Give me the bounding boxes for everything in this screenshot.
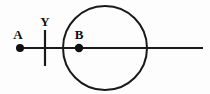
tick-y-label: Y: [40, 14, 50, 29]
diagram-canvas: A Y B: [0, 0, 210, 94]
point-a-dot: [16, 44, 24, 52]
diagram-svg: A Y B: [0, 0, 210, 94]
point-b-dot: [75, 44, 83, 52]
point-a-label: A: [13, 27, 23, 42]
point-b-label: B: [75, 27, 84, 42]
